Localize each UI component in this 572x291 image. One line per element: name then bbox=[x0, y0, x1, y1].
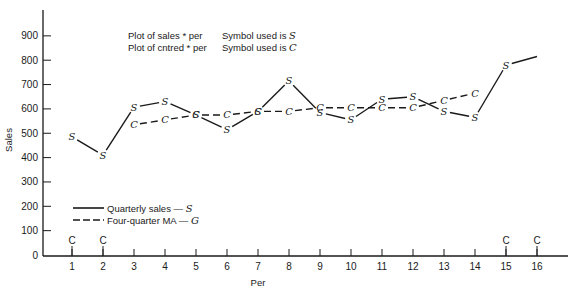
sales-point-marker: S bbox=[410, 91, 417, 102]
data-point-marker: C bbox=[409, 102, 417, 113]
data-point-marker: C bbox=[161, 114, 169, 125]
y-tick-label: 100 bbox=[21, 225, 38, 236]
sales-point-marker: S bbox=[472, 112, 479, 123]
x-tick-label: 4 bbox=[162, 261, 168, 272]
x-tick-label: 6 bbox=[224, 261, 230, 272]
x-tick-label: 16 bbox=[531, 261, 543, 272]
y-tick-label: 300 bbox=[21, 176, 38, 187]
y-axis-label: Sales bbox=[3, 128, 14, 152]
x-tick-label: 11 bbox=[377, 261, 388, 272]
data-point-marker: C bbox=[254, 106, 262, 117]
axis-marker-label: C bbox=[502, 235, 509, 246]
x-tick-label: 2 bbox=[100, 261, 106, 272]
x-tick-label: 12 bbox=[407, 261, 419, 272]
y-tick-label: 400 bbox=[21, 152, 38, 163]
y-tick-label: 500 bbox=[21, 128, 38, 139]
sales-point-marker: S bbox=[286, 75, 293, 86]
sales-point-marker: S bbox=[131, 102, 138, 113]
legend-entry: Four-quarter MA — G bbox=[107, 215, 199, 226]
x-axis-label: Per bbox=[251, 277, 266, 288]
y-tick-label: 700 bbox=[21, 79, 38, 90]
sales-point-marker: S bbox=[348, 114, 355, 125]
y-tick-label: 200 bbox=[21, 201, 38, 212]
x-tick-label: 13 bbox=[438, 261, 450, 272]
legend-entry: Quarterly sales — S bbox=[107, 203, 193, 214]
series-quarterly-sales: SSSSSSSSSSSSSSS bbox=[69, 57, 537, 161]
x-tick-label: 7 bbox=[255, 261, 261, 272]
y-tick-label: 0 bbox=[32, 250, 38, 261]
x-tick-label: 9 bbox=[317, 261, 323, 272]
axis-markers: CCCC bbox=[68, 235, 540, 256]
plot-note-text: Plot of sales * per bbox=[128, 30, 202, 41]
plot-note-symbol: Symbol used is C bbox=[222, 42, 297, 53]
sales-point-marker: S bbox=[224, 124, 231, 135]
x-tick-label: 5 bbox=[193, 261, 199, 272]
data-point-marker: C bbox=[378, 102, 386, 113]
data-point-marker: C bbox=[347, 102, 355, 113]
y-tick-label: 800 bbox=[21, 55, 38, 66]
x-tick-label: 14 bbox=[469, 261, 481, 272]
data-point-marker: C bbox=[285, 106, 293, 117]
data-point-marker: C bbox=[440, 95, 448, 106]
sales-point-marker: S bbox=[503, 60, 510, 71]
sales-point-marker: S bbox=[162, 96, 169, 107]
x-tick-label: 8 bbox=[286, 261, 292, 272]
data-point-marker: C bbox=[316, 102, 324, 113]
x-tick-label: 10 bbox=[345, 261, 357, 272]
axis-marker-label: C bbox=[68, 235, 75, 246]
plot-note-symbol: Symbol used is S bbox=[222, 30, 296, 41]
sales-point-marker: S bbox=[69, 131, 76, 142]
sales-point-marker: S bbox=[100, 150, 107, 161]
x-tick-label: 1 bbox=[69, 261, 75, 272]
sales-point-marker: S bbox=[441, 106, 448, 117]
data-point-marker: C bbox=[130, 119, 138, 130]
axis-marker-label: C bbox=[99, 235, 106, 246]
data-point-marker: C bbox=[192, 109, 200, 120]
y-tick-label: 900 bbox=[21, 30, 38, 41]
x-tick-label: 15 bbox=[500, 261, 512, 272]
plot-notes: Plot of sales * perSymbol used is SPlot … bbox=[128, 30, 297, 53]
data-point-marker: C bbox=[471, 88, 479, 99]
legend: Quarterly sales — SFour-quarter MA — G bbox=[73, 203, 199, 226]
y-tick-label: 600 bbox=[21, 103, 38, 114]
plot-note-text: Plot of cntred * per bbox=[128, 42, 207, 53]
axis-marker-label: C bbox=[533, 235, 540, 246]
sales-line-chart: 0100200300400500600700800900123456789101… bbox=[0, 0, 572, 291]
data-point-marker: C bbox=[223, 109, 231, 120]
x-tick-label: 3 bbox=[131, 261, 137, 272]
